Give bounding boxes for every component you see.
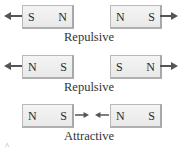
arrow-left-icon <box>4 12 22 20</box>
pole-label: N <box>116 110 125 122</box>
pole-label: S <box>28 11 35 23</box>
pole-label: N <box>28 110 37 122</box>
pole-label: S <box>148 110 155 122</box>
pole-label: S <box>148 11 155 23</box>
arrow-right-icon <box>160 12 178 20</box>
pole-label: N <box>116 11 125 23</box>
force-label: Repulsive <box>0 80 178 95</box>
magnet-right: N S <box>110 104 162 128</box>
magnet-left: N S <box>22 104 74 128</box>
force-label: Attractive <box>0 129 178 144</box>
pole-label: N <box>146 61 155 73</box>
pole-label: N <box>58 11 67 23</box>
arrow-left-icon <box>95 111 109 119</box>
force-label: Repulsive <box>0 30 178 45</box>
arrow-right-icon <box>160 62 178 70</box>
magnet-left: S N <box>22 5 74 29</box>
pole-label: S <box>116 61 123 73</box>
arrow-right-icon <box>75 111 89 119</box>
pole-label: S <box>60 110 67 122</box>
caret-up-icon[interactable]: ^ <box>5 141 9 151</box>
pole-label: N <box>28 61 37 73</box>
magnet-left: N S <box>22 55 74 79</box>
arrow-left-icon <box>4 62 22 70</box>
pole-label: S <box>60 61 67 73</box>
magnet-right: S N <box>110 55 162 79</box>
magnet-right: N S <box>110 5 162 29</box>
